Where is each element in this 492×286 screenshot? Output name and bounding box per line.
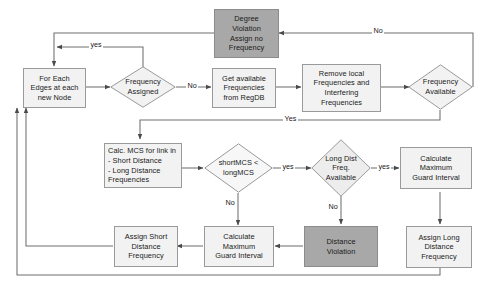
node-distance-violation-label: Distance Violation — [326, 237, 355, 256]
flowchart-canvas: For Each Edges at each new Node Frequenc… — [0, 0, 492, 286]
edge-label-no-long-dist-available: No — [327, 203, 339, 211]
node-assign-long-distance-frequency[interactable]: Assign Long Distance Frequency — [406, 226, 472, 268]
node-distance-violation[interactable]: Distance Violation — [304, 226, 378, 267]
node-remove-local-frequencies-label: Remove local Frequencies and Interfering… — [314, 69, 370, 107]
edge-label-text: yes — [91, 40, 102, 49]
node-for-each-edges[interactable]: For Each Edges at each new Node — [23, 68, 86, 108]
node-long-dist-freq-available-label: Long Dist Freq. Available — [323, 154, 359, 183]
node-get-available-frequencies[interactable]: Get available Frequencies from RegDB — [212, 68, 276, 108]
node-remove-local-frequencies[interactable]: Remove local Frequencies and Interfering… — [302, 64, 381, 112]
edge-degree-violation-to-for-each — [54, 33, 214, 66]
edge-assign-short-to-for-each — [26, 108, 113, 246]
node-assign-long-distance-frequency-label: Assign Long Distance Frequency — [418, 233, 459, 262]
edge-label-yes-freq-available: Yes — [283, 115, 298, 123]
node-calculate-max-guard-interval-left-label: Calculate Maximum Guard Interval — [215, 232, 263, 261]
edge-label-text: yes — [283, 162, 294, 171]
node-assign-short-distance-frequency[interactable]: Assign Short Distance Frequency — [114, 226, 178, 267]
edge-label-text: No — [374, 26, 383, 35]
node-frequency-available[interactable]: Frequency Available — [408, 64, 473, 110]
node-frequency-assigned-label: Frequency Assigned — [123, 77, 162, 96]
edge-label-yes-short-lt-long: yes — [281, 163, 295, 171]
edge-label-yes-freq-assigned-loop: yes — [89, 41, 103, 49]
node-short-vs-long-mcs[interactable]: shortMCS < longMCS — [204, 143, 273, 193]
node-short-vs-long-mcs-label: shortMCS < longMCS — [217, 158, 261, 177]
node-frequency-available-label: Frequency Available — [421, 77, 460, 96]
edge-label-text: yes — [379, 162, 390, 171]
edge-label-yes-long-dist-available: yes — [377, 163, 391, 171]
node-for-each-edges-label: For Each Edges at each new Node — [31, 74, 79, 103]
node-frequency-assigned[interactable]: Frequency Assigned — [110, 66, 176, 108]
edge-label-no-freq-available: No — [372, 27, 384, 35]
node-assign-short-distance-frequency-label: Assign Short Distance Frequency — [125, 232, 168, 261]
node-long-dist-freq-available[interactable]: Long Dist Freq. Available — [311, 139, 371, 197]
edge-label-text: No — [226, 198, 235, 207]
node-calculate-max-guard-interval-left[interactable]: Calculate Maximum Guard Interval — [204, 226, 274, 267]
node-calc-mcs[interactable]: Calc. MCS for link in - Short Distance -… — [104, 143, 182, 188]
node-calc-mcs-label: Calc. MCS for link in - Short Distance -… — [108, 146, 176, 184]
node-get-available-frequencies-label: Get available Frequencies from RegDB — [222, 74, 266, 103]
node-degree-violation-label: Degree Violation Assign no Frequency — [229, 14, 264, 52]
node-calculate-max-guard-interval-right-label: Calculate Maximum Guard Interval — [412, 154, 460, 183]
node-degree-violation[interactable]: Degree Violation Assign no Frequency — [214, 9, 279, 58]
edge-label-text: No — [329, 202, 338, 211]
node-calculate-max-guard-interval-right[interactable]: Calculate Maximum Guard Interval — [400, 147, 472, 189]
edge-label-text: No — [188, 81, 197, 90]
edge-label-text: Yes — [285, 114, 297, 123]
edge-label-no-short-lt-long: No — [224, 199, 236, 207]
edge-label-no-freq-assigned: No — [186, 82, 198, 90]
